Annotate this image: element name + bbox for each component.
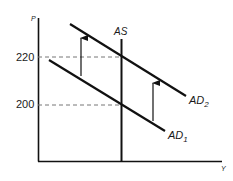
ad1-curve — [49, 60, 165, 131]
ad2-curve — [70, 24, 186, 96]
ad2-label: AD2 — [188, 94, 209, 109]
ad1-label-sub: 1 — [183, 135, 187, 144]
as-label: AS — [113, 26, 128, 37]
price-label-200: 200 — [16, 98, 34, 110]
ad-as-diagram: P Y 220 200 AS AD2 AD1 — [0, 0, 233, 181]
ad2-label-main: AD — [188, 94, 204, 106]
ad1-label-main: AD — [167, 129, 183, 141]
price-label-220: 220 — [16, 51, 34, 63]
ad1-label: AD1 — [167, 129, 188, 144]
ad2-label-sub: 2 — [203, 100, 209, 109]
x-axis-label: Y — [221, 165, 227, 172]
y-axis-label: P — [31, 15, 36, 22]
